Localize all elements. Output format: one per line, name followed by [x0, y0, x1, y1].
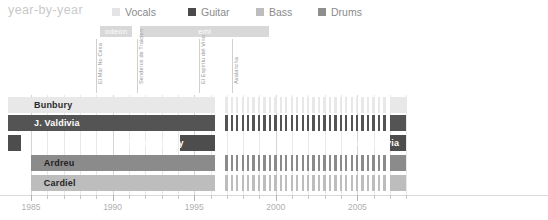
bar-dash: [383, 155, 385, 171]
bar-dash: [302, 155, 304, 171]
bar-dash: [285, 175, 287, 191]
bar-dash: [351, 97, 353, 113]
bar-dash: [307, 175, 309, 191]
bar-dash: [280, 97, 282, 113]
bar-dash: [318, 155, 320, 171]
bar-dash: [274, 175, 276, 191]
bar-dash: [247, 115, 249, 131]
bar-dash: [280, 155, 282, 171]
bar-dash: [225, 115, 227, 131]
bar-dash: [340, 97, 342, 113]
bar-dash: [225, 97, 227, 113]
axis-tick-label: 1995: [185, 202, 204, 212]
bar-dash: [247, 155, 249, 171]
bar-dash: [307, 155, 309, 171]
bar-dash: [318, 175, 320, 191]
record-label-bar: odeon: [100, 26, 132, 37]
bar-dash: [296, 97, 298, 113]
timeline-row: Bunbury: [0, 95, 548, 115]
bar-dash: [285, 97, 287, 113]
axis-tick: [357, 195, 358, 201]
bar-dash: [329, 175, 331, 191]
legend-label: Bass: [269, 6, 292, 18]
bar-dash: [383, 97, 385, 113]
bar-dash: [242, 115, 244, 131]
bar-dash: [323, 155, 325, 171]
axis-tick: [113, 195, 114, 201]
bar-dash: [351, 155, 353, 171]
album-title: El Espiritu del Vino: [200, 32, 206, 84]
bar-dash: [258, 155, 260, 171]
bar-dash: [361, 97, 363, 113]
bar-dash: [345, 97, 347, 113]
legend-swatch-icon: [318, 8, 326, 16]
bar-dash: [236, 115, 238, 131]
bar-dash: [225, 175, 227, 191]
bar-dash: [340, 115, 342, 131]
bar-segment: [390, 115, 406, 131]
bar-dash: [329, 97, 331, 113]
bar-dash: [269, 175, 271, 191]
bar-dash: [372, 175, 374, 191]
bar-dash: [351, 175, 353, 191]
bar-segment-dashed: [225, 97, 388, 113]
bar-dash: [356, 115, 358, 131]
bar-dash: [361, 175, 363, 191]
row-label: J. Valdivia: [34, 115, 80, 131]
axis-tick: [292, 195, 293, 199]
legend-item-drums: Drums: [318, 5, 362, 19]
bar-dash: [274, 155, 276, 171]
legend-item-guitar: Guitar: [188, 5, 230, 19]
bar-dash: [312, 155, 314, 171]
annotation-band: odeonemiEl Mar No CesaSenderos de Traici…: [0, 25, 548, 95]
axis-tick: [145, 195, 146, 199]
bar-dash: [367, 175, 369, 191]
axis-tick: [276, 195, 277, 201]
bar-dash: [263, 115, 265, 131]
axis-tick: [96, 195, 97, 199]
bar-dash: [378, 97, 380, 113]
bar-dash: [312, 115, 314, 131]
bar-dash: [307, 115, 309, 131]
plot-area: BunburyJ. ValdiviaBoguslavskyG. Valdivia…: [0, 95, 548, 195]
bar-dash: [242, 97, 244, 113]
bar-segment-dashed: [225, 155, 388, 171]
bar-dash: [296, 155, 298, 171]
bar-dash: [351, 115, 353, 131]
bar-dash: [263, 175, 265, 191]
bar-dash: [291, 97, 293, 113]
bar-dash: [247, 97, 249, 113]
bar-dash: [361, 155, 363, 171]
bar-dash: [367, 97, 369, 113]
bar-dash: [263, 155, 265, 171]
album-marker: Senderos de Traicion: [133, 39, 142, 93]
bar-dash: [252, 175, 254, 191]
bar-dash: [247, 175, 249, 191]
bar-dash: [291, 115, 293, 131]
x-axis: 19851990199520002005: [0, 195, 548, 220]
row-label: G. Valdivia: [0, 135, 403, 151]
legend-item-vocals: Vocals: [112, 5, 156, 19]
timeline-row: Ardreu: [0, 155, 548, 175]
row-label: Bunbury: [34, 97, 72, 113]
bar-dash: [258, 97, 260, 113]
axis-tick: [227, 195, 228, 199]
bar-segment: [390, 97, 406, 113]
bar-dash: [302, 97, 304, 113]
bar-dash: [231, 97, 233, 113]
bar-dash: [356, 175, 358, 191]
bar-dash: [340, 155, 342, 171]
album-marker: El Espiritu del Vino: [195, 39, 204, 93]
bar-dash: [269, 97, 271, 113]
bar-dash: [274, 115, 276, 131]
axis-line: [0, 195, 548, 196]
chart-title: year-by-year: [8, 3, 83, 17]
bar-dash: [383, 175, 385, 191]
axis-tick: [259, 195, 260, 199]
bar-dash: [285, 115, 287, 131]
bar-dash: [280, 115, 282, 131]
bar-dash: [345, 115, 347, 131]
bar-dash: [296, 115, 298, 131]
year-by-year-timeline-chart: year-by-year VocalsGuitarBassDrums odeon…: [0, 0, 548, 220]
bar-dash: [372, 97, 374, 113]
